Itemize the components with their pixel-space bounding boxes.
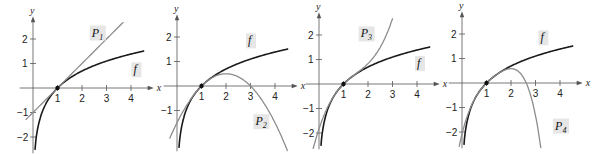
y-axis-arrow-icon xyxy=(460,11,464,17)
y-tick-label: 1 xyxy=(308,54,314,65)
y-tick-label: −1 xyxy=(303,103,315,114)
y-tick-label: −2 xyxy=(446,127,458,138)
x-tick-label: 1 xyxy=(55,93,61,104)
x-tick-label: 4 xyxy=(414,89,420,100)
y-axis-label: y xyxy=(173,3,179,14)
x-tick-label: 4 xyxy=(128,93,134,104)
y-tick-label: 2 xyxy=(166,32,172,43)
y-tick-label: 1 xyxy=(22,58,28,69)
x-tick-label: 3 xyxy=(104,93,110,104)
x-tick-label: 1 xyxy=(199,91,205,102)
panel-3: xy123421−1−2fP3 xyxy=(303,1,448,149)
curve-p3 xyxy=(313,16,393,149)
curve-p1 xyxy=(26,20,126,120)
y-axis-label: y xyxy=(315,1,321,12)
x-tick-label: 1 xyxy=(341,89,347,100)
y-tick-label: 2 xyxy=(22,34,28,45)
x-tick-label: 2 xyxy=(508,88,514,99)
x-tick-label: 3 xyxy=(248,91,254,102)
y-tick-label: 1 xyxy=(166,56,172,67)
panel-1: xy123421−1−2fP1 xyxy=(17,5,162,153)
x-tick-label: 3 xyxy=(533,88,539,99)
x-axis-label: x xyxy=(442,78,448,89)
y-tick-label: −1 xyxy=(17,107,29,118)
x-tick-label: 3 xyxy=(390,89,396,100)
panel-2: xy123421−1fP2 xyxy=(161,3,306,151)
y-tick-label: −2 xyxy=(303,128,315,139)
y-tick-label: 2 xyxy=(308,30,314,41)
x-axis-label: x xyxy=(156,82,162,93)
x-tick-label: 2 xyxy=(365,89,371,100)
x-axis-label: x xyxy=(585,77,591,88)
y-tick-label: −2 xyxy=(17,132,29,143)
x-axis-label: x xyxy=(300,80,306,91)
panel-4: xy123421−1−2fP4 xyxy=(446,0,591,148)
y-axis-arrow-icon xyxy=(31,16,35,22)
y-axis-label: y xyxy=(458,0,464,11)
y-axis-label: y xyxy=(29,5,35,16)
y-axis-arrow-icon xyxy=(317,12,321,18)
taylor-polynomials-figure: xy123421−1−2fP1 xy123421−1fP2 xy123421−1… xyxy=(0,0,600,154)
x-axis-arrow-icon xyxy=(577,81,583,85)
y-tick-label: −1 xyxy=(161,105,173,116)
y-axis-arrow-icon xyxy=(175,14,179,20)
x-tick-label: 4 xyxy=(272,91,278,102)
point-1-0 xyxy=(55,86,59,90)
y-tick-label: 2 xyxy=(451,29,457,40)
point-1-0 xyxy=(341,82,345,86)
x-axis-arrow-icon xyxy=(148,86,154,90)
x-tick-label: 2 xyxy=(79,93,85,104)
point-1-0 xyxy=(199,84,203,88)
x-axis-arrow-icon xyxy=(292,84,298,88)
x-tick-label: 1 xyxy=(484,88,490,99)
x-tick-label: 4 xyxy=(557,88,563,99)
curve-p2 xyxy=(170,74,288,152)
y-tick-label: −1 xyxy=(446,102,458,113)
point-1-0 xyxy=(484,81,488,85)
x-tick-label: 2 xyxy=(223,91,229,102)
y-tick-label: 1 xyxy=(451,53,457,64)
x-axis-arrow-icon xyxy=(434,82,440,86)
